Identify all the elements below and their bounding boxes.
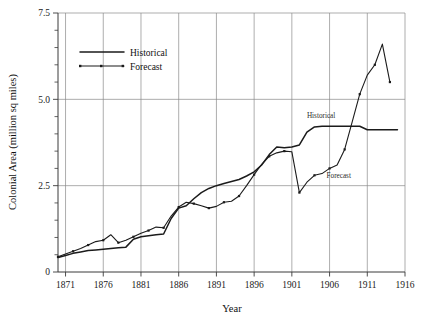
series-marker-forecast — [72, 250, 74, 252]
series-line-historical — [58, 126, 397, 257]
y-tick-label-2.5: 2.5 — [38, 181, 50, 191]
x-tick-label-1881: 1881 — [131, 280, 150, 290]
legend-label-forecast: Forecast — [130, 62, 163, 72]
series-marker-forecast — [298, 191, 300, 193]
y-tick-label-5.0: 5.0 — [38, 95, 50, 105]
series-marker-forecast — [238, 195, 240, 197]
x-tick-label-1916: 1916 — [396, 280, 415, 290]
series-marker-forecast — [328, 167, 330, 169]
series-marker-forecast — [178, 206, 180, 208]
series-marker-forecast — [389, 81, 391, 83]
series-marker-forecast — [313, 174, 315, 176]
x-axis-title: Year — [222, 303, 242, 314]
series-marker-forecast — [268, 155, 270, 157]
inline-annotations: HistoricalForecast — [307, 112, 351, 180]
series-group — [57, 44, 398, 258]
legend-marker-forecast-2 — [100, 65, 102, 67]
legend-label-historical: Historical — [130, 48, 168, 58]
x-tick-label-1891: 1891 — [207, 280, 226, 290]
series-marker-forecast — [193, 203, 195, 205]
x-axis-tick-labels: 1871187618811886189118961901190619111916 — [56, 280, 415, 290]
y-axis-tick-labels: 02.55.07.5 — [38, 8, 50, 277]
series-marker-forecast — [132, 236, 134, 238]
y-axis-title: Colonial Area (million sq miles) — [7, 74, 19, 210]
y-axis-ticks — [53, 13, 58, 272]
x-tick-label-1906: 1906 — [320, 280, 339, 290]
legend-marker-forecast-3 — [122, 65, 124, 67]
series-marker-forecast — [102, 239, 104, 241]
series-marker-forecast — [283, 150, 285, 152]
series-marker-forecast — [223, 201, 225, 203]
series-marker-forecast — [359, 93, 361, 95]
x-axis-ticks — [66, 272, 405, 277]
series-marker-forecast — [117, 242, 119, 244]
x-tick-label-1871: 1871 — [56, 280, 75, 290]
y-tick-label-7.5: 7.5 — [38, 8, 50, 18]
legend: Historical Forecast — [79, 48, 168, 72]
series-marker-forecast — [147, 229, 149, 231]
x-tick-label-1876: 1876 — [94, 280, 113, 290]
line-chart: 02.55.07.5 18711876188118861891189619011… — [0, 0, 431, 322]
series-marker-forecast — [57, 256, 59, 258]
series-marker-forecast — [87, 244, 89, 246]
y-tick-label-0: 0 — [45, 267, 50, 277]
x-tick-label-1886: 1886 — [169, 280, 188, 290]
series-line-forecast — [58, 44, 390, 257]
legend-marker-forecast-1 — [79, 65, 81, 67]
x-tick-label-1896: 1896 — [245, 280, 264, 290]
series-marker-forecast — [208, 207, 210, 209]
annotation-historical: Historical — [307, 112, 335, 120]
chart-container: 02.55.07.5 18711876188118861891189619011… — [0, 0, 431, 322]
x-tick-label-1901: 1901 — [282, 280, 301, 290]
series-marker-forecast — [374, 64, 376, 66]
series-marker-forecast — [253, 174, 255, 176]
x-tick-label-1911: 1911 — [358, 280, 377, 290]
series-marker-forecast — [163, 227, 165, 229]
series-marker-forecast — [344, 148, 346, 150]
annotation-forecast: Forecast — [327, 172, 351, 180]
